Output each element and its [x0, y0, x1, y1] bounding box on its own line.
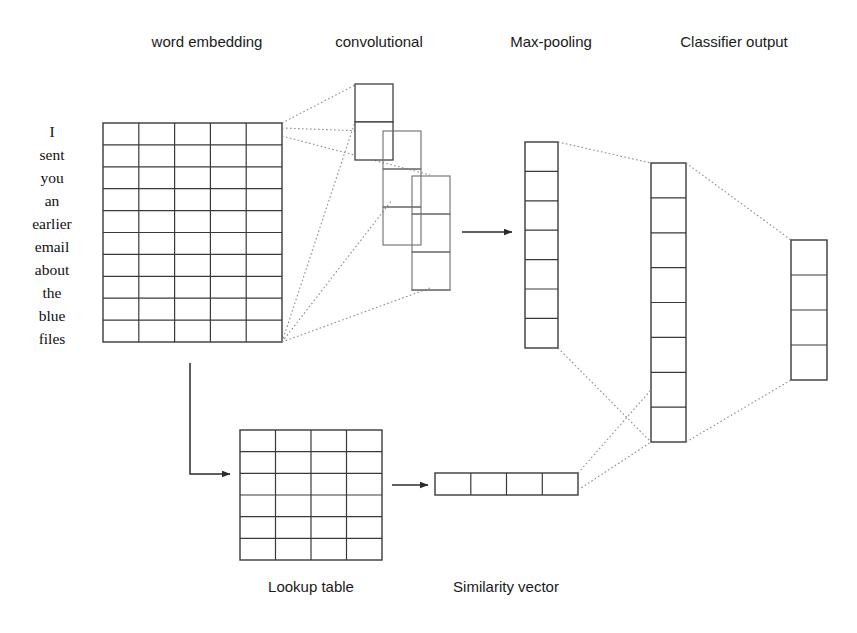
connections-maxpool-to-classifier [558, 142, 651, 442]
input-word: the [43, 284, 62, 301]
conv-feature-map-3 [412, 176, 450, 290]
label-lookup-table: Lookup table [268, 578, 354, 595]
classifier-output-column [791, 240, 827, 380]
input-word: files [39, 330, 66, 347]
convolutional-layer [355, 84, 450, 290]
similarity-vector-row [435, 473, 578, 495]
stage-labels-top: word embedding convolutional Max-pooling… [151, 33, 789, 50]
label-word-embedding: word embedding [151, 33, 263, 50]
architecture-diagram: word embedding convolutional Max-pooling… [0, 0, 857, 633]
input-word: email [35, 238, 69, 255]
input-word: about [35, 261, 70, 278]
lookup-table-grid [240, 430, 382, 560]
input-word: sent [40, 146, 66, 163]
arrow-embedding-to-lookup [190, 363, 230, 474]
label-max-pooling: Max-pooling [510, 33, 592, 50]
input-word: an [45, 192, 60, 209]
conv-feature-map-1 [355, 84, 393, 160]
input-word: blue [39, 307, 66, 324]
input-sentence-words: I sent you an earlier email about the bl… [32, 123, 72, 347]
stage-labels-bottom: Lookup table Similarity vector [268, 578, 559, 595]
label-convolutional: convolutional [335, 33, 423, 50]
input-word: you [40, 169, 64, 186]
max-pooling-column [525, 142, 558, 348]
word-embedding-grid [103, 123, 282, 342]
input-word: I [49, 123, 54, 140]
input-word: earlier [32, 215, 72, 232]
classifier-hidden-column [651, 163, 686, 442]
connections-classifier-to-output [686, 163, 791, 442]
label-classifier-output: Classifier output [680, 33, 788, 50]
label-similarity-vector: Similarity vector [453, 578, 559, 595]
